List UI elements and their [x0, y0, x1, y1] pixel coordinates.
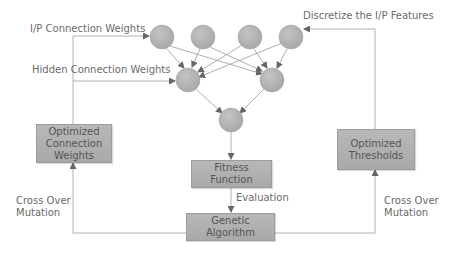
- output-node: [219, 108, 243, 132]
- cross-over-right: Cross Over: [384, 195, 439, 207]
- box-text: Thresholds: [349, 150, 404, 162]
- discretize-features-label: Discretize the I/P Features: [303, 10, 434, 22]
- hidden-node-1: [176, 68, 200, 92]
- fitness-function-box: Fitness Function: [191, 160, 272, 188]
- box-text: Fitness: [210, 162, 253, 174]
- box-text: Optimized: [349, 138, 404, 150]
- input-node-3: [238, 25, 262, 49]
- mutation-left: Mutation: [16, 207, 71, 219]
- input-node-2: [191, 25, 215, 49]
- input-node-1: [150, 25, 174, 49]
- cross-over-left: Cross Over: [16, 195, 71, 207]
- box-text: Connection: [46, 138, 103, 150]
- box-text: Algorithm: [206, 227, 255, 239]
- cross-over-mutation-left-label: Cross Over Mutation: [16, 195, 71, 219]
- box-text: Optimized: [46, 126, 103, 138]
- box-text: Function: [210, 174, 253, 186]
- box-text: Weights: [46, 150, 103, 162]
- hidden-node-2: [260, 68, 284, 92]
- genetic-algorithm-box: Genetic Algorithm: [186, 213, 275, 241]
- flow-lines: [73, 29, 375, 233]
- box-text: Genetic: [206, 215, 255, 227]
- mutation-right: Mutation: [384, 207, 439, 219]
- cross-over-mutation-right-label: Cross Over Mutation: [384, 195, 439, 219]
- evaluation-label: Evaluation: [236, 192, 289, 204]
- input-node-4: [279, 25, 303, 49]
- hidden-connection-weights-label: Hidden Connection Weights: [32, 64, 170, 76]
- optimized-thresholds-box: Optimized Thresholds: [337, 129, 415, 170]
- optimized-connection-weights-box: Optimized Connection Weights: [36, 124, 112, 163]
- ip-connection-weights-label: I/P Connection Weights: [30, 23, 145, 35]
